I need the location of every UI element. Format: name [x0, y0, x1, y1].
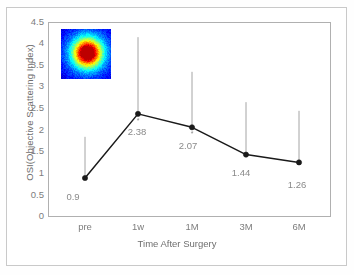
x-tick-label: 1M — [172, 221, 212, 232]
data-value-label: 2.38 — [117, 127, 157, 137]
svg-text:*: * — [137, 117, 140, 124]
data-value-label: 2.07 — [168, 141, 208, 151]
chart-graphics: ** — [0, 0, 354, 275]
figure-container: 4.5 4 3.5 3 2.5 2 1.5 1 0.5 0 OSI(Object… — [0, 0, 354, 275]
x-tick-label: 6M — [279, 221, 319, 232]
svg-text:*: * — [191, 130, 194, 137]
x-tick-label: 1w — [118, 221, 158, 232]
data-value-label: 1.26 — [277, 180, 317, 190]
x-axis-title: Time After Surgery — [0, 238, 354, 249]
x-tick-label: 3M — [226, 221, 266, 232]
x-tick-label: pre — [65, 221, 105, 232]
data-value-label: 1.44 — [221, 168, 261, 178]
data-value-label: 0.9 — [53, 192, 93, 202]
